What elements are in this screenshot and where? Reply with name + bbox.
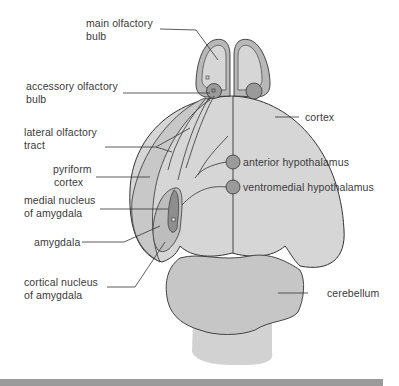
label-amygdala: amygdala xyxy=(34,236,80,249)
label-cortical-nucleus-of-amygdala: cortical nucleus of amygdala xyxy=(24,276,98,302)
label-medial-nucleus-of-amygdala: medial nucleus of amygdala xyxy=(24,194,95,220)
label-ventromedial-hypothalamus: ventromedial hypothalamus xyxy=(243,181,374,194)
label-cerebellum: cerebellum xyxy=(327,287,379,300)
label-accessory-olfactory-bulb: accessory olfactory bulb xyxy=(26,80,118,106)
cerebellum-region xyxy=(166,255,303,334)
label-lateral-olfactory-tract: lateral olfactory tract xyxy=(24,126,97,152)
anterior-hypothalamus xyxy=(226,155,240,169)
label-pyriform-cortex: pyriform cortex xyxy=(53,163,92,189)
label-cortex: cortex xyxy=(305,111,334,124)
accessory-olfactory-bulb-right xyxy=(246,83,262,99)
label-main-olfactory-bulb: main olfactory bulb xyxy=(86,17,153,43)
ventromedial-hypothalamus xyxy=(226,180,240,194)
bottom-bar xyxy=(0,379,383,386)
label-anterior-hypothalamus: anterior hypothalamus xyxy=(243,156,349,169)
